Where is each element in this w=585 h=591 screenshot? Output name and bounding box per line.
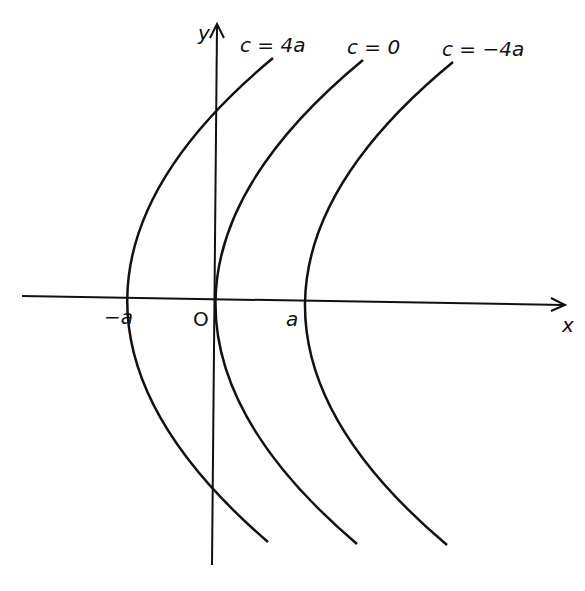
origin-label: O [193,307,209,331]
x-axis-label: x [561,313,574,337]
curve-label-c-4a: c = 4a [240,33,305,57]
hyperbola-family-diagram: y x O −a a c = 4a c = 0 c = −4a [0,0,585,591]
y-axis-label: y [197,21,211,45]
curve-label-c-neg4a: c = −4a [442,37,524,61]
curve-label-c-0: c = 0 [347,35,400,59]
tick-label-neg-a: −a [104,305,133,329]
tick-label-pos-a: a [286,307,298,331]
